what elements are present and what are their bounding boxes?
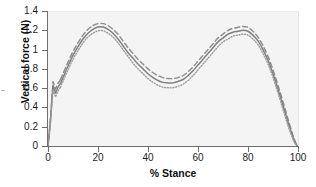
plot-curves-svg [48, 12, 298, 147]
x-tick-label: 0 [33, 153, 63, 163]
x-axis-title: % Stance [48, 168, 298, 179]
y-tick-mark [42, 69, 47, 70]
y-tick-label: 0 [32, 141, 38, 151]
x-tick-label: 20 [83, 153, 113, 163]
x-tick-label: 40 [133, 153, 163, 163]
y-tick-mark [42, 146, 47, 147]
vertical-force-chart-figure: 00.20.40.60.811.21.4 020406080100 Vertic… [0, 0, 316, 187]
y-tick-mark [42, 127, 47, 128]
y-tick-mark [42, 11, 47, 12]
x-tick-label: 60 [183, 153, 213, 163]
y-tick-mark [42, 88, 47, 89]
curve-2-transient [48, 87, 61, 147]
y-axis-line [47, 11, 48, 147]
y-tick-mark [42, 30, 47, 31]
y-tick-mark [42, 107, 47, 108]
x-tick-label: 100 [283, 153, 313, 163]
y-tick-label: 1 [32, 45, 38, 55]
crop-edge-mark [1, 90, 5, 91]
y-axis-title: Vertical force (N) [20, 0, 31, 132]
x-axis-line [47, 146, 299, 147]
x-tick-label: 80 [233, 153, 263, 163]
y-tick-mark [42, 50, 47, 51]
curves-group [48, 23, 298, 147]
plot-panel [48, 11, 299, 147]
